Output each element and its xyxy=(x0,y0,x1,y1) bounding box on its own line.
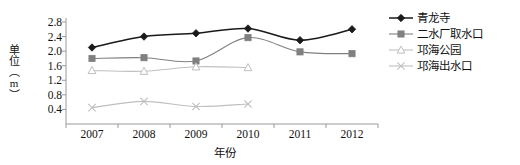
data-point-square xyxy=(297,49,303,55)
series-line xyxy=(92,38,352,62)
data-point-square xyxy=(245,35,251,41)
series-1 xyxy=(88,25,355,51)
data-point-square xyxy=(89,55,95,61)
data-point-diamond xyxy=(244,25,251,32)
series-3 xyxy=(88,63,252,74)
data-point-square xyxy=(398,31,404,37)
legend-marker-triangle-icon xyxy=(388,43,414,57)
data-point-diamond xyxy=(192,30,199,37)
data-point-diamond xyxy=(348,26,355,33)
data-point-square xyxy=(141,55,147,61)
legend-item[interactable]: 青龙寺 xyxy=(388,10,516,26)
legend-marker-cross-icon xyxy=(388,59,414,73)
data-point-diamond xyxy=(140,33,147,40)
legend-label: 二水厂取水口 xyxy=(414,27,483,41)
chart-legend: 青龙寺二水厂取水口邛海公园邛海出水口 xyxy=(388,10,516,74)
legend-item[interactable]: 二水厂取水口 xyxy=(388,26,516,42)
series-line xyxy=(92,67,248,72)
series-line xyxy=(92,101,248,107)
data-point-square xyxy=(349,51,355,57)
series-4 xyxy=(88,98,251,112)
data-point-diamond xyxy=(296,37,303,44)
data-point-diamond xyxy=(397,14,404,21)
legend-item[interactable]: 邛海公园 xyxy=(388,42,516,58)
data-point-diamond xyxy=(88,44,95,51)
legend-label: 邛海公园 xyxy=(414,43,461,57)
line-chart: 单位（m） 0.40.81.21.62.02.42.8 200720082009… xyxy=(0,0,520,165)
legend-label: 青龙寺 xyxy=(414,11,450,25)
series-line xyxy=(92,28,352,47)
legend-item[interactable]: 邛海出水口 xyxy=(388,58,516,74)
legend-marker-square-icon xyxy=(388,27,414,41)
legend-label: 邛海出水口 xyxy=(414,59,472,73)
legend-marker-diamond-icon xyxy=(388,11,414,25)
